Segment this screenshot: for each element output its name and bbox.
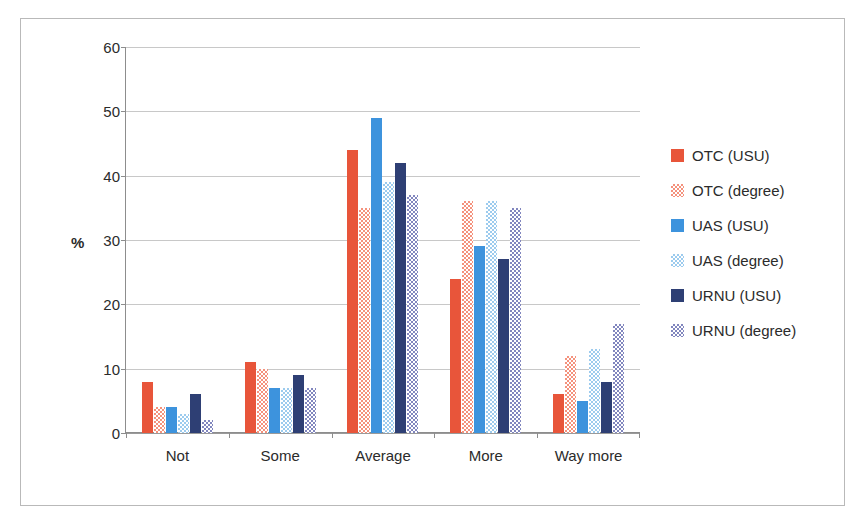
bar[interactable] (450, 279, 461, 433)
legend-item[interactable]: UAS (degree) (671, 252, 796, 269)
legend-swatch-icon (671, 324, 684, 337)
bar[interactable] (577, 401, 588, 433)
legend-item[interactable]: OTC (degree) (671, 182, 796, 199)
bar[interactable] (166, 407, 177, 433)
bar[interactable] (395, 163, 406, 433)
x-tick-mark (537, 433, 538, 438)
x-tick-label: More (469, 447, 503, 464)
bar[interactable] (510, 208, 521, 433)
y-tick-label: 30 (103, 232, 120, 249)
legend-swatch-icon (671, 289, 684, 302)
legend-item[interactable]: URNU (USU) (671, 287, 796, 304)
bar-group: Average (332, 47, 435, 433)
x-tick-label: Way more (555, 447, 623, 464)
bar[interactable] (565, 356, 576, 433)
gridline (126, 433, 640, 434)
legend-label: OTC (degree) (692, 182, 785, 199)
legend-item[interactable]: OTC (USU) (671, 147, 796, 164)
legend-label: UAS (degree) (692, 252, 784, 269)
y-tick-label: 50 (103, 103, 120, 120)
legend-label: UAS (USU) (692, 217, 769, 234)
bar[interactable] (498, 259, 509, 433)
bar[interactable] (407, 195, 418, 433)
bar[interactable] (474, 246, 485, 433)
bar[interactable] (154, 407, 165, 433)
legend-label: OTC (USU) (692, 147, 770, 164)
x-tick-mark (434, 433, 435, 438)
x-tick-mark (126, 433, 127, 438)
bar[interactable] (371, 118, 382, 433)
y-tick-label: 0 (112, 425, 120, 442)
legend-label: URNU (USU) (692, 287, 781, 304)
y-tick-label: 10 (103, 360, 120, 377)
bar-group: Not (126, 47, 229, 433)
bar-group: Some (229, 47, 332, 433)
legend-label: URNU (degree) (692, 322, 796, 339)
chart-frame: % 0102030405060 NotSomeAverageMoreWay mo… (20, 18, 845, 506)
bar[interactable] (202, 420, 213, 433)
bar[interactable] (462, 201, 473, 433)
bar[interactable] (359, 208, 370, 433)
bar[interactable] (383, 182, 394, 433)
bar[interactable] (190, 394, 201, 433)
bar-groups: NotSomeAverageMoreWay more (126, 47, 640, 433)
legend-item[interactable]: UAS (USU) (671, 217, 796, 234)
bar-group: Way more (537, 47, 640, 433)
bar[interactable] (601, 382, 612, 433)
bar[interactable] (486, 201, 497, 433)
legend-swatch-icon (671, 184, 684, 197)
bar[interactable] (269, 388, 280, 433)
y-tick-label: 20 (103, 296, 120, 313)
x-tick-label: Some (261, 447, 300, 464)
x-tick-label: Average (355, 447, 411, 464)
x-tick-mark (229, 433, 230, 438)
x-tick-mark (639, 433, 640, 438)
y-tick-label: 40 (103, 167, 120, 184)
y-axis-title: % (71, 234, 84, 251)
chart-legend: OTC (USU)OTC (degree)UAS (USU)UAS (degre… (671, 147, 796, 339)
bar[interactable] (293, 375, 304, 433)
bar[interactable] (347, 150, 358, 433)
legend-swatch-icon (671, 254, 684, 267)
x-tick-mark (332, 433, 333, 438)
legend-swatch-icon (671, 149, 684, 162)
x-tick-label: Not (166, 447, 189, 464)
bar[interactable] (589, 349, 600, 433)
bar[interactable] (245, 362, 256, 433)
bar[interactable] (305, 388, 316, 433)
legend-item[interactable]: URNU (degree) (671, 322, 796, 339)
legend-swatch-icon (671, 219, 684, 232)
plot-area: 0102030405060 NotSomeAverageMoreWay more (126, 47, 640, 433)
bar[interactable] (613, 324, 624, 433)
bar[interactable] (281, 388, 292, 433)
bar[interactable] (257, 369, 268, 433)
bar[interactable] (553, 394, 564, 433)
bar[interactable] (142, 382, 153, 433)
bar[interactable] (178, 414, 189, 433)
y-tick-label: 60 (103, 39, 120, 56)
bar-group: More (434, 47, 537, 433)
